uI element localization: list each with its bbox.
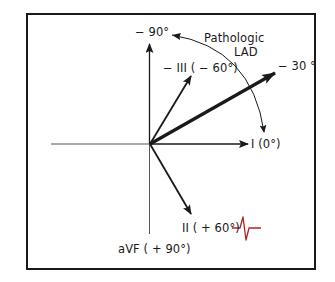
pathologic-label-line1: Pathologic bbox=[204, 33, 264, 45]
minus-90-label: − 90° bbox=[135, 27, 169, 39]
minus-30-label: − 30 ° bbox=[278, 61, 316, 73]
lead-minus-iii-label: − III ( − 60°) bbox=[163, 63, 238, 75]
minus-30-arrow bbox=[150, 73, 275, 144]
pathologic-label-line2: LAD bbox=[234, 47, 258, 59]
hexaxial-diagram bbox=[0, 0, 335, 282]
lead-ii-label: II ( + 60°) bbox=[182, 223, 240, 235]
avf-label: aVF ( + 90°) bbox=[118, 244, 191, 256]
lead-ii-arrow bbox=[150, 144, 191, 214]
lead-i-label: I (0°) bbox=[251, 139, 281, 151]
